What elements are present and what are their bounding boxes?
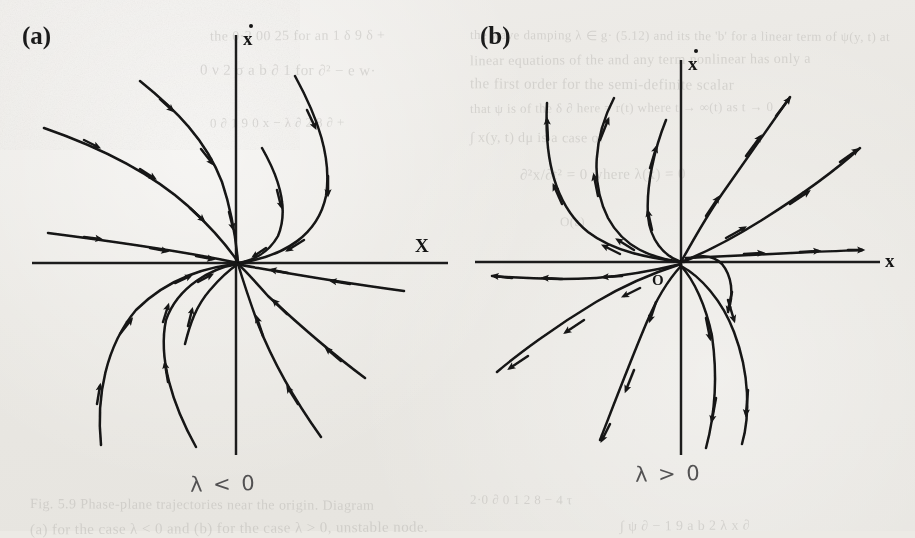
trajectory (681, 266, 715, 448)
panel-b-y-axis-dot-accent (694, 49, 698, 53)
panel-a-y-axis-label: x (243, 28, 253, 50)
panel-b-axes (475, 60, 880, 455)
panel-b-trajectories (492, 97, 862, 448)
panel-a-x-axis-label: X (415, 235, 429, 257)
trajectory (547, 103, 681, 262)
trajectory (684, 256, 731, 312)
trajectory (238, 264, 404, 291)
trajectory (648, 120, 681, 262)
trajectory (140, 81, 238, 262)
trajectory (681, 148, 860, 262)
panel-a-y-axis-dot-accent (249, 24, 253, 28)
trajectory (100, 264, 238, 445)
panel-a-caption-lambda-negative: λ < 0 (190, 471, 257, 497)
panel-label-a: (a) (22, 22, 51, 50)
panel-label-b: (b) (480, 22, 511, 50)
panel-b-origin-label: O (652, 272, 664, 289)
panel-b-caption-lambda-positive: λ > 0 (635, 461, 702, 487)
trajectory (238, 264, 321, 437)
trajectory (164, 264, 238, 447)
panel-b-x-axis-label: x (885, 250, 895, 272)
panel-a-axes (32, 35, 448, 455)
trajectory (681, 97, 790, 262)
panel-b-y-axis-label: x (688, 53, 698, 75)
panel-a-flow-arrows (84, 99, 350, 404)
trajectory (597, 98, 681, 262)
trajectory (239, 76, 327, 263)
trajectory (44, 128, 238, 262)
trajectory (238, 148, 283, 263)
